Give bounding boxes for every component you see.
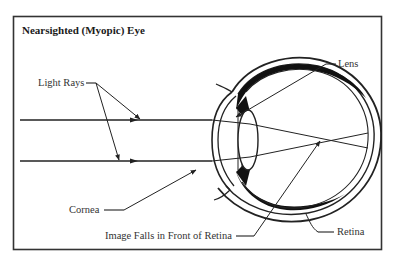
- myopic-eye-diagram: Nearsighted (Myopic) Eye: [0, 0, 393, 262]
- svg-text:Light Rays: Light Rays: [38, 77, 84, 88]
- diagram-title: Nearsighted (Myopic) Eye: [22, 24, 145, 37]
- svg-text:Cornea: Cornea: [69, 204, 100, 215]
- svg-text:Retina: Retina: [337, 226, 365, 237]
- svg-text:Lens: Lens: [338, 58, 358, 69]
- svg-text:Image Falls in Front of Retina: Image Falls in Front of Retina: [105, 230, 232, 241]
- lens: [238, 110, 258, 170]
